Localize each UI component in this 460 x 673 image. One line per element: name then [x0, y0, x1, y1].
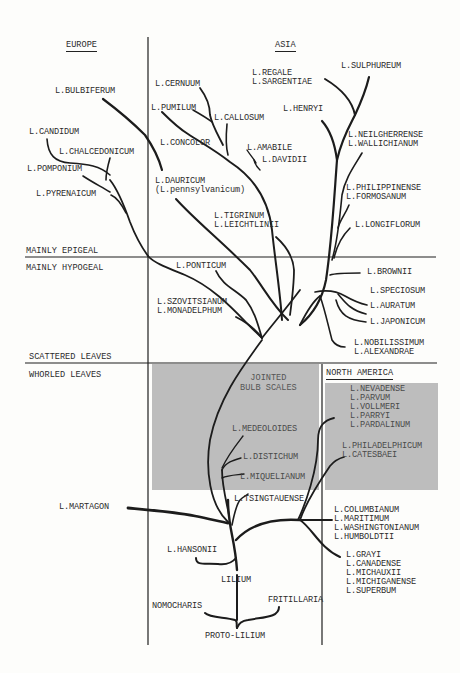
species-cernuum: L.CERNUUM — [155, 80, 200, 89]
species-longiflorum: L.LONGIFLORUM — [355, 221, 420, 230]
species-grayi-group: L.GRAYI L.CANADENSE L.MICHAUXII L.MICHIG… — [346, 551, 416, 596]
lilium-phylogeny-diagram: EUROPE ASIA NORTH AMERICA MAINLY EPIGEAL… — [0, 0, 460, 673]
species-szovitsianum-monadelphum: L.SZOVITSIANUM L.MONADELPHUM — [157, 298, 227, 316]
species-pyrenaicum: L.PYRENAICUM — [36, 190, 96, 199]
species-chalcedonicum: L.CHALCEDONICUM — [59, 148, 134, 157]
species-davidii: L.DAVIDII — [262, 156, 307, 165]
branch-hansonii — [196, 558, 236, 564]
species-martagon: L.MARTAGON — [59, 503, 109, 512]
species-distichum: L.DISTICHUM — [243, 453, 298, 462]
label-fritillaria: FRITILLARIA — [268, 596, 323, 605]
species-regale-sargentiae: L.REGALE L.SARGENTIAE — [252, 69, 312, 87]
species-miquelianum: L.MIQUELIANUM — [240, 473, 305, 482]
species-tsingtauense: L.TSINGTAUENSE — [234, 495, 304, 504]
species-ponticum: L.PONTICUM — [176, 262, 226, 271]
trunk-speciosum — [300, 296, 320, 325]
trunk-henryi-stem — [300, 160, 337, 325]
species-bulbiferum: L.BULBIFERUM — [55, 87, 115, 96]
label-mainly-hypogeal: MAINLY HYPOGEAL — [26, 263, 103, 273]
label-proto-lilium: PROTO-LILIUM — [205, 632, 265, 641]
species-brownii: L.BROWNII — [367, 268, 412, 277]
branch-brownii — [330, 273, 360, 275]
branch-nobilissimum — [320, 296, 345, 347]
branch-nomocharis — [205, 613, 237, 628]
species-nevadense-group: L.NEVADENSE L.PARVUM L.VOLLMERI L.PARRYI… — [350, 385, 410, 430]
region-europe: EUROPE — [66, 40, 97, 52]
species-neilgherrense-wallichianum: L.NEILGHERRENSE L.WALLICHIANUM — [348, 131, 423, 149]
branch-north-america — [236, 520, 300, 540]
species-callosum: L.CALLOSUM — [214, 114, 264, 123]
region-asia: ASIA — [275, 40, 296, 52]
species-sulphureum: L.SULPHUREUM — [341, 62, 401, 71]
branch-martagon — [128, 508, 228, 523]
species-medeoloides: L.MEDEOLOIDES — [232, 425, 297, 434]
species-henryi: L.HENRYI — [283, 105, 323, 114]
branch-chalcedonicum — [106, 158, 110, 180]
branch-europe-stem — [110, 180, 148, 256]
species-amabile: L.AMABILE — [247, 144, 292, 153]
species-pomponium: L.POMPONIUM — [27, 165, 82, 174]
species-dauricum: L.DAURICUM (L.pennsylvanicum) — [155, 177, 245, 195]
species-hansonii: L.HANSONII — [167, 546, 217, 555]
species-speciosum: L.SPECIOSUM — [370, 287, 425, 296]
label-mainly-epigeal: MAINLY EPIGEAL — [26, 246, 98, 256]
species-philadelphicum-catesbaei: L.PHILADELPHICUM L.CATESBAEI — [342, 442, 422, 460]
branch-tigrinum — [276, 237, 294, 315]
label-lilium: LILIUM — [221, 576, 251, 585]
species-concolor: L.CONCOLOR — [160, 139, 210, 148]
branch-fritillaria — [237, 607, 279, 628]
species-philippinense-formosanum: L.PHILIPPINENSE L.FORMOSANUM — [346, 184, 421, 202]
species-nobilissimum-alexandrae: L.NOBILISSIMUM L.ALEXANDRAE — [354, 339, 424, 357]
species-candidum: L.CANDIDUM — [29, 128, 79, 137]
branch-regale — [325, 79, 355, 115]
branch-davidii — [254, 160, 260, 170]
branch-henryi — [322, 121, 337, 160]
label-nomocharis: NOMOCHARIS — [152, 602, 202, 611]
species-columbianum-group: L.COLUMBIANUM L.MARITIMUM L.WASHINGTONIA… — [334, 506, 419, 542]
branch-callosum — [226, 124, 228, 155]
species-tigrinum-leichtlinii: L.TIGRINUM L.LEICHTLINII — [214, 212, 279, 230]
species-pumilum: L.PUMILUM — [151, 104, 196, 113]
species-japonicum: L.JAPONICUM — [370, 318, 425, 327]
label-jointed-bulb-scales: JOINTED BULB SCALES — [240, 373, 297, 393]
label-whorled-leaves: WHORLED LEAVES — [29, 370, 101, 380]
species-auratum: L.AURATUM — [370, 302, 415, 311]
label-scattered-leaves: SCATTERED LEAVES — [29, 352, 112, 362]
region-north-america: NORTH AMERICA — [326, 368, 393, 380]
